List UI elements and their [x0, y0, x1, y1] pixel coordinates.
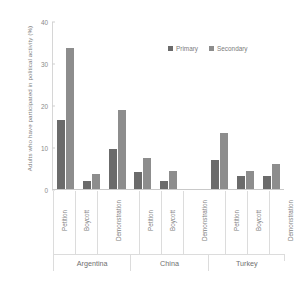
bar-pair-demonstration — [104, 22, 130, 189]
bar-primary — [134, 172, 142, 189]
bar-primary — [211, 160, 219, 189]
x-tick-cell: Boycott — [161, 191, 183, 254]
bar-primary — [109, 149, 117, 189]
bar-pair-petition — [53, 22, 79, 189]
bar-group-argentina — [53, 22, 130, 189]
bar-pair-demonstration — [258, 22, 284, 189]
x-tick-label: Petition — [61, 210, 68, 231]
x-tick-cell: Demonstration — [97, 191, 139, 254]
grouped-bar-chart: Adults who have participated in politica… — [0, 0, 301, 285]
x-tick-label: Petition — [147, 210, 154, 231]
y-tick-label: 10 — [41, 145, 52, 152]
x-tick-label: Petition — [233, 210, 240, 231]
bar-primary — [83, 181, 91, 189]
legend-swatch-icon — [209, 46, 214, 51]
group-label-band: ArgentinaChinaTurkey — [53, 254, 285, 271]
group-label: Turkey — [236, 259, 258, 268]
bar-pair-boycott — [79, 22, 105, 189]
bar-secondary — [169, 171, 177, 189]
group-label: China — [160, 259, 179, 268]
bar-secondary — [92, 174, 100, 189]
x-tick-label: Boycott — [83, 210, 90, 231]
bar-primary — [263, 176, 271, 189]
x-tick-cell: Boycott — [247, 191, 269, 254]
bar-secondary — [66, 48, 74, 189]
y-tick-label: 40 — [41, 19, 52, 26]
y-axis-title: Adults who have participated in politica… — [26, 9, 33, 189]
x-tick-label: Demonstration — [287, 200, 294, 241]
y-tick-label: 0 — [44, 187, 52, 194]
y-tick-label: 30 — [41, 61, 52, 68]
bar-primary — [57, 120, 65, 189]
legend-swatch-icon — [168, 46, 173, 51]
group-label-cell: China — [130, 255, 207, 271]
group-label-cell: Turkey — [208, 255, 285, 271]
x-axis-line — [52, 189, 284, 190]
x-tick-cell: Petition — [139, 191, 161, 254]
x-tick-label: Demonstration — [201, 200, 208, 241]
bar-primary — [237, 176, 245, 189]
bar-secondary — [220, 133, 228, 189]
bar-pair-petition — [130, 22, 156, 189]
category-group-china: PetitionBoycottDemonstration — [139, 191, 225, 254]
y-tick-label: 20 — [41, 103, 52, 110]
x-tick-cell: Petition — [225, 191, 247, 254]
legend-label: Secondary — [217, 45, 248, 52]
category-label-band: PetitionBoycottDemonstrationPetitionBoyc… — [53, 191, 285, 254]
legend-item-primary[interactable]: Primary — [168, 45, 198, 52]
bar-secondary — [143, 158, 151, 189]
bar-secondary — [246, 171, 254, 189]
group-label: Argentina — [77, 259, 108, 268]
x-tick-label: Boycott — [169, 210, 176, 231]
bar-secondary — [118, 110, 126, 189]
x-tick-cell: Petition — [53, 191, 75, 254]
chart-legend: PrimarySecondary — [168, 45, 248, 52]
x-tick-label: Boycott — [255, 210, 262, 231]
x-tick-cell: Boycott — [75, 191, 97, 254]
category-group-argentina: PetitionBoycottDemonstration — [53, 191, 139, 254]
x-tick-label: Demonstration — [115, 200, 122, 241]
legend-item-secondary[interactable]: Secondary — [209, 45, 248, 52]
x-tick-cell: Demonstration — [183, 191, 225, 254]
bar-secondary — [272, 164, 280, 189]
category-group-turkey: PetitionBoycottDemonstration — [225, 191, 301, 254]
x-tick-cell: Demonstration — [269, 191, 301, 254]
legend-label: Primary — [176, 45, 198, 52]
group-label-cell: Argentina — [53, 255, 130, 271]
bar-primary — [160, 181, 168, 189]
